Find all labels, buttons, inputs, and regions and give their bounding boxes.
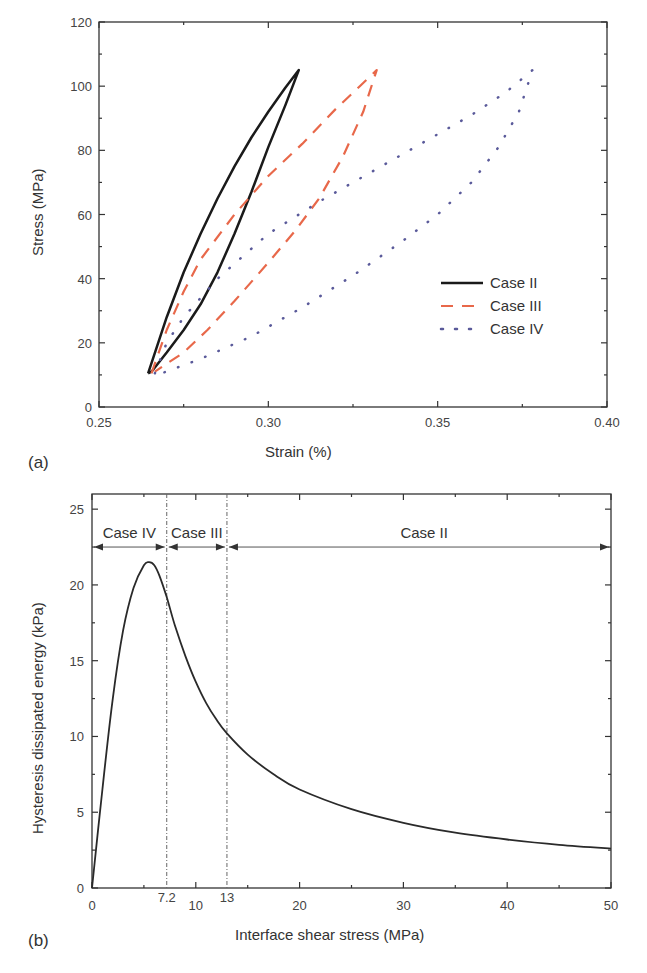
- region-label: Case III: [171, 524, 223, 541]
- y-tick-label: 25: [70, 502, 84, 517]
- x-tick-label: 0.40: [594, 415, 619, 430]
- x-tick-label: 30: [396, 898, 410, 913]
- x-tick-label: 20: [292, 898, 306, 913]
- panel-label-b: (b): [28, 931, 49, 950]
- chart-a: 0.250.300.350.40 020406080100120 Case II…: [28, 15, 620, 472]
- series-hysteresis-energy: [92, 562, 611, 888]
- series-case-iv: [155, 70, 533, 373]
- y-tick-label: 40: [78, 272, 92, 287]
- y-tick-label: 0: [77, 881, 84, 896]
- x-tick-label: 40: [500, 898, 514, 913]
- y-tick-label: 20: [78, 336, 92, 351]
- y-tick-label: 120: [70, 15, 92, 30]
- chart-a-x-axis-label: Strain (%): [265, 443, 332, 460]
- y-tick-label: 20: [70, 578, 84, 593]
- y-tick-label: 60: [78, 208, 92, 223]
- chart-b: 01020304050 0510152025 7.213Case IVCase …: [28, 494, 618, 950]
- y-tick-label: 0: [85, 400, 92, 415]
- chart-b-x-ticks: 01020304050: [88, 494, 618, 913]
- x-tick-label: 50: [604, 898, 618, 913]
- chart-a-legend: Case II Case III Case IV: [441, 274, 543, 337]
- chart-b-x-axis-label: Interface shear stress (MPa): [235, 926, 424, 943]
- x-tick-label: 0.30: [256, 415, 281, 430]
- chart-a-y-ticks: 020406080100120: [70, 15, 607, 415]
- panel-label-a: (a): [28, 453, 49, 472]
- chart-b-y-ticks: 0510152025: [70, 502, 611, 896]
- chart-a-frame: [99, 22, 607, 407]
- x-tick-label: 0.25: [86, 415, 111, 430]
- chart-a-y-axis-label: Stress (MPa): [29, 168, 46, 256]
- y-tick-label: 10: [70, 729, 84, 744]
- x-tick-label: 10: [189, 898, 203, 913]
- chart-b-series: [92, 562, 611, 888]
- chart-b-annotations: 7.213Case IVCase IIICase II: [94, 494, 609, 905]
- threshold-label: 7.2: [158, 890, 176, 905]
- threshold-label: 13: [220, 890, 234, 905]
- y-tick-label: 5: [77, 805, 84, 820]
- region-label: Case IV: [103, 524, 156, 541]
- y-tick-label: 80: [78, 143, 92, 158]
- chart-b-y-axis-label: Hysteresis dissipated energy (kPa): [29, 602, 46, 834]
- chart-a-series: [148, 70, 532, 373]
- chart-b-frame: [92, 494, 611, 888]
- y-tick-label: 100: [70, 79, 92, 94]
- chart-a-x-ticks: 0.250.300.350.40: [86, 22, 619, 430]
- figure: 0.250.300.350.40 020406080100120 Case II…: [0, 0, 647, 973]
- legend-label-case-ii: Case II: [490, 274, 538, 291]
- legend-label-case-iii: Case III: [490, 297, 542, 314]
- x-tick-label: 0: [88, 898, 95, 913]
- series-case-ii: [148, 70, 299, 373]
- x-tick-label: 0.35: [425, 415, 450, 430]
- y-tick-label: 15: [70, 654, 84, 669]
- region-label: Case II: [400, 524, 448, 541]
- legend-label-case-iv: Case IV: [490, 320, 543, 337]
